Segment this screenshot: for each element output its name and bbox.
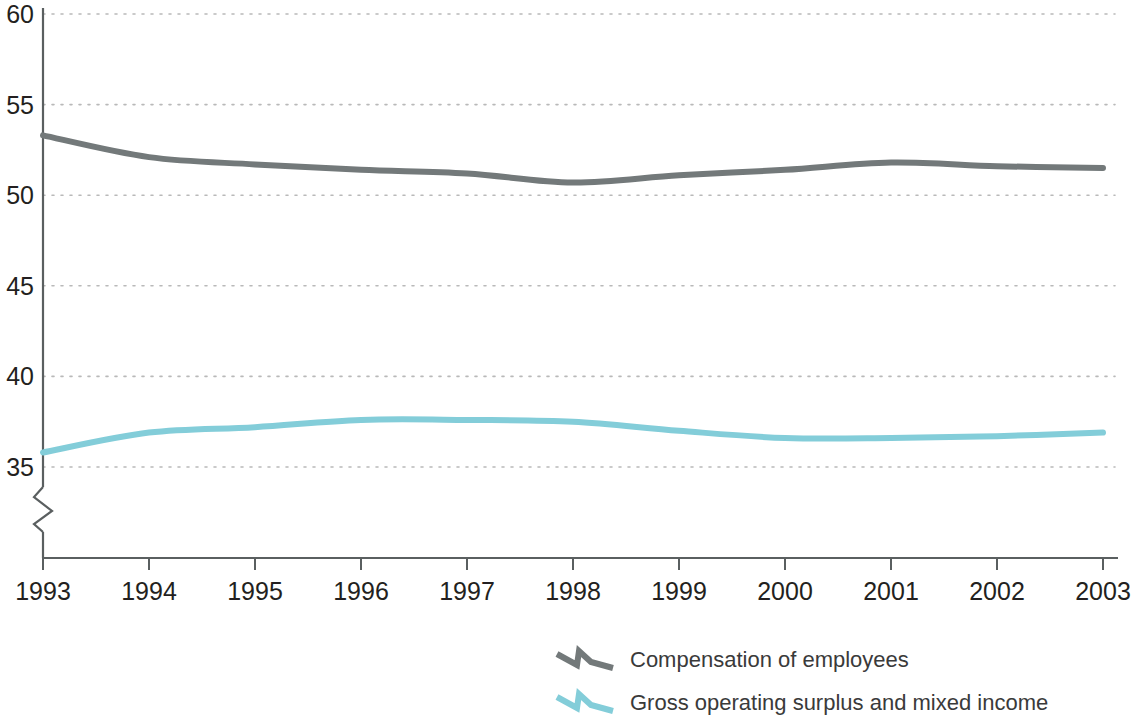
y-axis-tick-label: 50 [6,181,34,209]
x-axis-tick-label: 1994 [121,577,177,605]
y-axis-tick-label: 60 [6,0,34,28]
series-line [43,419,1103,452]
zigzag-line-icon [557,651,613,668]
chart-legend: Compensation of employeesGross operating… [557,647,1048,715]
gridline-group [43,14,1115,467]
x-axis-tick-label: 2001 [863,577,919,605]
y-axis-tick-label: 35 [6,453,34,481]
legend-item-label: Compensation of employees [630,647,909,672]
x-axis-tick-label: 2002 [969,577,1025,605]
y-axis-break-icon [34,487,52,532]
x-axis-tick-label: 2000 [757,577,813,605]
x-axis-tick-label: 1999 [651,577,707,605]
y-axis [34,8,52,558]
zigzag-line-icon [557,694,613,711]
y-axis-tick-label: 40 [6,362,34,390]
x-axis-tick-label: 1996 [333,577,389,605]
x-axis-tick-label: 1997 [439,577,495,605]
y-axis-tick-label: 45 [6,272,34,300]
x-axis-tick-label: 1995 [227,577,283,605]
x-axis-tick-label: 2003 [1075,577,1131,605]
line-chart: 605550454035 199319941995199619971998199… [0,0,1131,721]
x-axis-tick-label: 1993 [15,577,71,605]
legend-item-label: Gross operating surplus and mixed income [630,690,1048,715]
series-line [43,135,1103,182]
y-axis-tick-label: 55 [6,91,34,119]
x-axis-tick-label: 1998 [545,577,601,605]
x-tick-group: 1993199419951996199719981999200020012002… [15,558,1131,605]
y-tick-group: 605550454035 [6,0,34,481]
series-group [43,135,1103,452]
chart-canvas: 605550454035 199319941995199619971998199… [0,0,1131,721]
